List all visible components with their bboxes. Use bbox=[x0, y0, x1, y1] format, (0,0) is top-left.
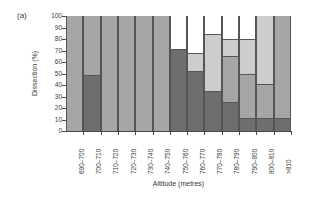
x-tick-label: 730–740 bbox=[147, 149, 154, 174]
bar-segment-class-1-dark-grey bbox=[257, 118, 272, 131]
x-tick-label: 720–730 bbox=[130, 149, 137, 174]
bar-segment-class-4-white bbox=[223, 16, 238, 39]
bar-segment-class-2-medium-grey bbox=[257, 84, 272, 119]
y-tick-label: 30 bbox=[55, 94, 62, 100]
x-tick-mark bbox=[239, 131, 240, 135]
bar-710-720[interactable] bbox=[101, 16, 118, 131]
bar-segment-class-3-light-grey bbox=[240, 39, 255, 74]
y-tick-label: 60 bbox=[55, 59, 62, 65]
y-tick-label: 50 bbox=[55, 71, 62, 77]
bar-segment-class-1-dark-grey bbox=[171, 49, 186, 131]
x-tick-mark bbox=[187, 131, 188, 135]
bar-segment-class-2-medium-grey bbox=[119, 16, 134, 131]
y-axis-label: Dissection (%) bbox=[31, 16, 38, 131]
panel-label: (a) bbox=[17, 11, 27, 20]
x-tick-mark bbox=[222, 131, 223, 135]
y-tick-mark bbox=[62, 16, 66, 17]
bar-segment-class-2-medium-grey bbox=[84, 16, 99, 75]
x-tick-mark bbox=[204, 131, 205, 135]
y-tick-label: 100 bbox=[51, 13, 62, 19]
y-tick-mark bbox=[62, 39, 66, 40]
bar-segment-class-1-dark-grey bbox=[240, 118, 255, 131]
bar-segment-class-2-medium-grey bbox=[154, 16, 169, 131]
x-tick-label: 740–750 bbox=[164, 149, 171, 174]
y-tick-label: 70 bbox=[55, 48, 62, 54]
bar-segment-class-1-dark-grey bbox=[205, 91, 220, 131]
x-tick-mark bbox=[256, 131, 257, 135]
x-tick-mark bbox=[118, 131, 119, 135]
bar-770-780[interactable] bbox=[204, 16, 221, 131]
y-tick-label: 80 bbox=[55, 36, 62, 42]
bar-segment-class-2-medium-grey bbox=[136, 16, 151, 131]
x-tick-mark bbox=[135, 131, 136, 135]
bar-740-750[interactable] bbox=[153, 16, 170, 131]
x-tick-mark bbox=[101, 131, 102, 135]
y-tick-label: 20 bbox=[55, 105, 62, 111]
y-tick-mark bbox=[62, 85, 66, 86]
x-tick-label: 690–700 bbox=[78, 149, 85, 174]
bar-segment-class-4-white bbox=[171, 16, 186, 49]
bar-780-790[interactable] bbox=[222, 16, 239, 131]
plot-area bbox=[66, 16, 291, 131]
y-axis-tick-labels: 0102030405060708090100 bbox=[40, 0, 62, 197]
bar-segment-class-2-medium-grey bbox=[223, 56, 238, 102]
bar-segment-class-2-medium-grey bbox=[67, 16, 82, 131]
y-tick-label: 10 bbox=[55, 117, 62, 123]
bar-750-760[interactable] bbox=[170, 16, 187, 131]
x-tick-label: 800–810 bbox=[268, 149, 275, 174]
x-tick-label: 770–780 bbox=[216, 149, 223, 174]
x-tick-label: 750–760 bbox=[182, 149, 189, 174]
x-tick-label: >810 bbox=[285, 159, 292, 174]
y-tick-mark bbox=[62, 108, 66, 109]
bar-760-770[interactable] bbox=[187, 16, 204, 131]
y-tick-mark bbox=[62, 131, 66, 132]
y-tick-mark bbox=[62, 120, 66, 121]
y-tick-mark bbox=[62, 74, 66, 75]
bar-segment-class-1-dark-grey bbox=[84, 75, 99, 131]
x-tick-mark bbox=[291, 131, 292, 135]
bar-segment-class-3-light-grey bbox=[257, 16, 272, 84]
bar-segment-class-1-dark-grey bbox=[275, 118, 290, 131]
bar--810[interactable] bbox=[274, 16, 291, 131]
bar-segment-class-3-light-grey bbox=[188, 53, 203, 71]
y-tick-mark bbox=[62, 51, 66, 52]
bar-segment-class-4-white bbox=[188, 16, 203, 53]
x-tick-label: 760–770 bbox=[199, 149, 206, 174]
bar-segment-class-2-medium-grey bbox=[275, 16, 290, 118]
bar-690-700[interactable] bbox=[66, 16, 83, 131]
y-tick-mark bbox=[62, 62, 66, 63]
x-axis-spine bbox=[66, 131, 291, 132]
y-tick-mark bbox=[62, 97, 66, 98]
bar-segment-class-3-light-grey bbox=[223, 39, 238, 56]
figure-panel-a: (a) Dissection (%) 010203040506070809010… bbox=[0, 0, 322, 197]
x-tick-mark bbox=[274, 131, 275, 135]
y-tick-label: 90 bbox=[55, 25, 62, 31]
bar-segment-class-3-light-grey bbox=[205, 34, 220, 90]
bar-790-800[interactable] bbox=[239, 16, 256, 131]
bar-800-810[interactable] bbox=[256, 16, 273, 131]
bar-segment-class-2-medium-grey bbox=[240, 74, 255, 119]
x-axis-label: Altitude (metres) bbox=[66, 180, 291, 187]
y-tick-label: 40 bbox=[55, 82, 62, 88]
x-tick-label: 710–720 bbox=[112, 149, 119, 174]
y-tick-mark bbox=[62, 28, 66, 29]
bar-700-710[interactable] bbox=[83, 16, 100, 131]
x-tick-label: 790–800 bbox=[251, 149, 258, 174]
bar-segment-class-2-medium-grey bbox=[102, 16, 117, 131]
bar-segment-class-1-dark-grey bbox=[223, 102, 238, 131]
x-tick-label: 700–710 bbox=[95, 149, 102, 174]
x-tick-label: 780–790 bbox=[233, 149, 240, 174]
x-tick-mark bbox=[153, 131, 154, 135]
bar-segment-class-4-white bbox=[205, 16, 220, 34]
x-tick-mark bbox=[83, 131, 84, 135]
bar-730-740[interactable] bbox=[135, 16, 152, 131]
bar-720-730[interactable] bbox=[118, 16, 135, 131]
bar-segment-class-1-dark-grey bbox=[188, 71, 203, 131]
bar-segment-class-4-white bbox=[240, 16, 255, 39]
x-tick-mark bbox=[170, 131, 171, 135]
